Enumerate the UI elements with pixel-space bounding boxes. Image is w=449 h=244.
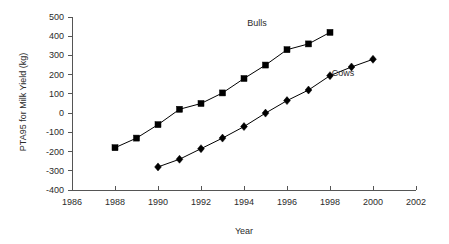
data-point-marker [155,122,161,128]
y-axis-title: PTA95 for Milk Yield (kg) [18,53,28,151]
data-point-marker [198,101,204,107]
data-point-marker [327,29,333,35]
x-tick-label: 1988 [105,197,125,207]
x-tick-label: 1986 [62,197,82,207]
data-point-marker [176,155,183,163]
y-tick-label: -400 [46,185,64,195]
x-axis-title: Year [235,226,253,236]
y-tick-label: 400 [49,31,64,41]
milk-yield-line-chart: 5004003002001000-100-200-300-400 PTA95 f… [0,0,449,244]
chart-container: 5004003002001000-100-200-300-400 PTA95 f… [0,0,449,244]
x-axis-ticks [72,186,416,190]
data-point-marker [241,76,247,82]
x-tick-label: 2000 [363,197,383,207]
data-point-marker [198,145,205,153]
y-tick-label: 500 [49,12,64,22]
data-point-marker [284,47,290,53]
y-tick-label: 200 [49,70,64,80]
y-tick-label: 100 [49,89,64,99]
y-axis: 5004003002001000-100-200-300-400 PTA95 f… [18,12,72,195]
x-tick-label: 1992 [191,197,211,207]
y-tick-label: -200 [46,147,64,157]
series-bulls [112,29,333,150]
data-point-marker [177,106,183,112]
data-point-marker [112,145,118,151]
x-tick-label: 1990 [148,197,168,207]
y-tick-label: -300 [46,166,64,176]
x-tick-label: 1994 [234,197,254,207]
data-point-marker [305,86,312,94]
data-point-marker [284,97,291,105]
x-tick-label: 1996 [277,197,297,207]
data-point-marker [134,135,140,141]
series-label-bulls: Bulls [247,18,267,28]
data-point-marker [306,41,312,47]
x-axis: 198619881990199219941996199820002002 Yea… [62,186,426,236]
y-axis-tick-labels: 5004003002001000-100-200-300-400 [46,12,64,195]
y-tick-label: -100 [46,127,64,137]
x-axis-tick-labels: 198619881990199219941996199820002002 [62,197,426,207]
data-point-marker [155,163,162,171]
data-point-marker [241,123,248,131]
data-point-marker [220,90,226,96]
data-point-marker [262,109,269,117]
series-annotations: BullsCows [247,18,355,78]
x-tick-label: 1998 [320,197,340,207]
series-layer [112,29,376,171]
data-point-marker [370,55,377,63]
y-tick-label: 300 [49,50,64,60]
series-label-cows: Cows [332,68,355,78]
y-tick-label: 0 [59,108,64,118]
x-tick-label: 2002 [406,197,426,207]
data-point-marker [219,134,226,142]
data-point-marker [263,62,269,68]
y-axis-ticks [68,17,72,190]
